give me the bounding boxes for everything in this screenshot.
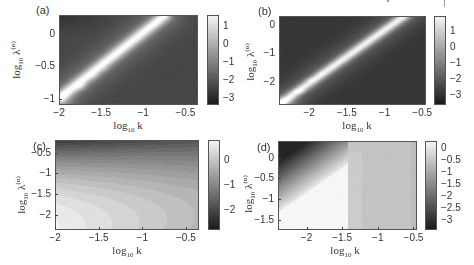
y-tick-label: −0.5 (31, 148, 51, 158)
x-tick-label: −1.5 (89, 233, 109, 243)
y-tick-label: 0 (49, 29, 55, 39)
x-axis-label: log10 k (112, 244, 141, 259)
x-tick-label: −2 (53, 108, 64, 118)
colorbar-tick-label: 1 (223, 21, 229, 31)
colorbar-tick-label: 0 (224, 155, 230, 165)
heatmap-plot-area (59, 15, 198, 105)
colorbar-tick-label: −1 (224, 180, 235, 190)
panel-label: (a) (36, 4, 49, 16)
x-tick-mark (385, 102, 386, 105)
y-axis-label: log10 λ(α) (243, 43, 259, 81)
colorbar-gradient (209, 141, 219, 229)
y-tick-mark (278, 220, 281, 221)
x-axis-label: log10 k (113, 119, 142, 134)
y-tick-label: 0 (268, 153, 274, 163)
x-tick-mark (186, 227, 187, 230)
colorbar-tick-label: −2 (441, 191, 452, 201)
x-tick-mark (101, 102, 102, 105)
colorbar-tick-label: −3 (441, 215, 452, 225)
x-tick-mark (309, 102, 310, 105)
x-axis-label: log10 k (330, 244, 359, 259)
x-tick-label: −1 (138, 108, 149, 118)
y-tick-label: 0 (269, 20, 275, 30)
x-tick-label: −2 (301, 233, 312, 243)
y-axis-label: log10 λ(α) (14, 176, 30, 214)
heatmap-image (60, 16, 197, 104)
cropped-text-artifact (444, 0, 445, 7)
x-tick-label: −0.5 (176, 233, 196, 243)
x-tick-mark (59, 102, 60, 105)
heatmap-image (280, 17, 425, 104)
colorbar-tick-label: 0 (441, 143, 447, 153)
colorbar-gradient (208, 16, 218, 104)
colorbar-tick-label: −3 (450, 90, 461, 100)
cropped-text-artifact (387, 0, 389, 2)
colorbar-gradient (435, 17, 445, 104)
y-tick-mark (278, 158, 281, 159)
x-tick-label: −0.5 (412, 108, 432, 118)
y-tick-label: −1.5 (254, 215, 274, 225)
x-tick-mark (413, 227, 414, 230)
y-tick-mark (59, 66, 62, 67)
colorbar (208, 140, 220, 230)
x-tick-mark (378, 227, 379, 230)
y-tick-label: −2 (264, 77, 275, 87)
colorbar-tick-label: −3 (223, 93, 234, 103)
x-tick-label: −2 (303, 108, 314, 118)
x-tick-mark (342, 227, 343, 230)
colorbar (207, 15, 219, 105)
heatmap-image (56, 141, 198, 229)
colorbar-tick-label: 0 (450, 42, 456, 52)
colorbar-tick-label: −0.5 (441, 155, 461, 165)
y-tick-label: −2 (40, 210, 51, 220)
heatmap-plot-area (279, 16, 426, 105)
y-tick-label: −1 (264, 48, 275, 58)
x-tick-mark (143, 102, 144, 105)
y-tick-mark (279, 25, 282, 26)
y-tick-label: −0.5 (254, 173, 274, 183)
x-tick-mark (99, 227, 100, 230)
x-tick-label: −1.5 (91, 108, 111, 118)
colorbar-tick-label: −2 (223, 75, 234, 85)
colorbar-gradient (426, 142, 436, 229)
y-tick-mark (55, 215, 58, 216)
colorbar-tick-label: −2 (450, 74, 461, 84)
heatmap-image (279, 142, 416, 229)
y-tick-label: −1.5 (31, 189, 51, 199)
heatmap-plot-area (278, 141, 417, 230)
colorbar-tick-label: −2 (224, 205, 235, 215)
x-tick-label: −0.5 (404, 233, 424, 243)
y-tick-mark (278, 199, 281, 200)
x-axis-label: log10 k (342, 119, 371, 134)
colorbar (434, 16, 446, 105)
y-tick-mark (59, 99, 62, 100)
y-tick-label: −0.5 (35, 61, 55, 71)
x-tick-mark (347, 102, 348, 105)
y-axis-label: log10 λ(α) (9, 41, 25, 79)
x-tick-label: −1.5 (337, 108, 357, 118)
x-tick-mark (307, 227, 308, 230)
y-tick-label: −1 (263, 194, 274, 204)
x-tick-mark (185, 102, 186, 105)
y-tick-mark (55, 173, 58, 174)
y-tick-mark (279, 82, 282, 83)
colorbar-tick-label: −1 (223, 57, 234, 67)
x-tick-label: −1 (379, 108, 390, 118)
x-tick-label: −2 (49, 233, 60, 243)
y-tick-label: −1 (44, 94, 55, 104)
x-tick-label: −1 (137, 233, 148, 243)
x-tick-label: −1 (372, 233, 383, 243)
heatmap-plot-area (55, 140, 199, 230)
y-tick-mark (279, 53, 282, 54)
colorbar (425, 141, 437, 230)
colorbar-tick-label: −1 (450, 58, 461, 68)
y-tick-mark (278, 178, 281, 179)
colorbar-tick-label: 0 (223, 39, 229, 49)
x-tick-mark (55, 227, 56, 230)
x-tick-label: −0.5 (175, 108, 195, 118)
y-tick-mark (55, 153, 58, 154)
x-tick-label: −1.5 (332, 233, 352, 243)
panel-label: (b) (258, 5, 271, 17)
colorbar-tick-label: 1 (450, 26, 456, 36)
colorbar-tick-label: −1.5 (441, 179, 461, 189)
